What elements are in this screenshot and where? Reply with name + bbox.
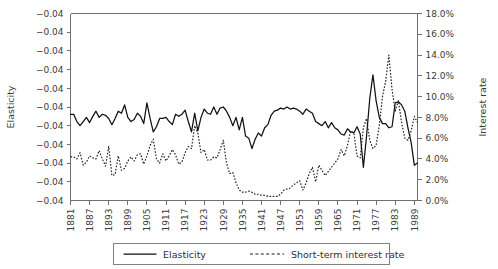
y-tick-label: −0.04	[36, 177, 64, 187]
x-tick-label: 1959	[314, 208, 324, 231]
y-tick-label: −0.04	[36, 140, 64, 150]
x-tick-label: 1947	[276, 209, 286, 232]
y2-tick-label: 8.0%	[426, 113, 449, 123]
y-tick-label: −0.04	[36, 121, 64, 131]
y2-axis-ticks: 18.0%16.0%14.0%12.0%10.0%8.0%6.0%4.0%2.0…	[418, 9, 455, 206]
y2-tick-label: 4.0%	[426, 154, 449, 164]
x-tick-label: 1965	[333, 209, 343, 232]
y-tick-label: −0.04	[36, 84, 64, 94]
x-axis-ticks: 1881188718931899190519111917192319291935…	[66, 201, 420, 232]
legend-label-interest-rate: Short-term interest rate	[291, 249, 404, 260]
x-tick-label: 1941	[257, 209, 267, 232]
plot-frame	[71, 14, 418, 201]
y-tick-label: −0.04	[36, 158, 64, 168]
data-series-layer	[71, 55, 418, 196]
x-tick-label: 1887	[85, 209, 95, 232]
y2-tick-label: 2.0%	[426, 175, 449, 185]
y2-tick-label: 6.0%	[426, 133, 449, 143]
chart-figure: Elasticity Interest rate −0.04−0.04−0.04…	[0, 0, 498, 269]
y2-tick-label: 18.0%	[426, 9, 455, 19]
x-tick-label: 1989	[410, 208, 420, 231]
x-tick-label: 1953	[295, 209, 305, 232]
x-tick-label: 1923	[199, 209, 209, 232]
y-tick-label: −0.04	[36, 27, 64, 37]
x-tick-label: 1929	[219, 208, 229, 231]
x-tick-label: 1983	[390, 209, 400, 232]
series-line-elasticity	[71, 75, 418, 167]
x-tick-label: 1917	[180, 209, 190, 232]
y2-tick-label: 14.0%	[426, 50, 455, 60]
x-tick-label: 1971	[352, 209, 362, 232]
y-tick-label: −0.04	[36, 9, 64, 19]
y2-axis-title: Interest rate	[477, 77, 488, 136]
y-tick-label: −0.04	[36, 196, 64, 206]
y-axis-title: Elasticity	[5, 85, 16, 128]
y-tick-label: −0.04	[36, 102, 64, 112]
y-axis-ticks: −0.04−0.04−0.04−0.04−0.04−0.04−0.04−0.04…	[36, 9, 71, 206]
y-tick-label: −0.04	[36, 46, 64, 56]
y2-tick-label: 10.0%	[426, 92, 455, 102]
x-tick-label: 1893	[104, 209, 114, 232]
y2-tick-label: 16.0%	[426, 29, 455, 39]
x-tick-label: 1899	[123, 208, 133, 231]
chart-canvas: Elasticity Interest rate −0.04−0.04−0.04…	[0, 0, 498, 269]
x-tick-label: 1881	[66, 209, 76, 232]
y2-tick-label: 0.0%	[426, 196, 449, 206]
x-tick-label: 1977	[371, 209, 381, 232]
x-tick-label: 1911	[161, 209, 171, 232]
y-tick-label: −0.04	[36, 65, 64, 75]
legend-label-elasticity: Elasticity	[163, 249, 206, 260]
y2-tick-label: 12.0%	[426, 71, 455, 81]
x-tick-label: 1905	[142, 209, 152, 232]
chart-legend: Elasticity Short-term interest rate	[114, 244, 405, 265]
x-tick-label: 1935	[238, 209, 248, 232]
